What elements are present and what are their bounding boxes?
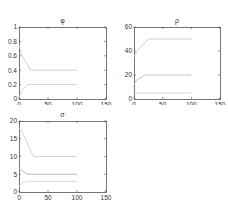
plot-phi-svg: φ05010015000.20.40.60.81 [0,0,114,105]
y-tick-label: 15 [10,135,18,142]
y-tick-label: 1 [13,23,17,30]
y-tick-label: 10 [10,153,18,160]
plot-rho-svg: ρ0501001500204060 [114,0,228,105]
y-tick-label: 0.4 [8,67,17,74]
plot-title: ρ [175,17,179,25]
plot-sigma: σ05010015005101520 [0,100,114,211]
y-tick-label: 5 [13,171,17,178]
series-line-mid [134,75,191,85]
y-tick-label: 20 [10,117,18,124]
series-line-mid [19,169,77,174]
x-tick-label: 50 [159,101,167,105]
plot-rho: ρ0501001500204060 [114,0,228,105]
x-tick-label: 50 [44,194,52,201]
x-tick-label: 100 [72,194,83,201]
y-tick-label: 0 [128,95,132,102]
plot-title: σ [60,111,65,118]
plot-sigma-svg: σ05010015005101520 [0,100,114,211]
axes-box [20,122,107,193]
y-tick-label: 0.6 [8,52,17,59]
y-tick-label: 40 [125,47,133,54]
series-line-high [134,39,191,57]
series-line-low [19,181,77,186]
y-tick-label: 0.2 [8,81,17,88]
x-tick-label: 150 [101,194,112,201]
x-tick-label: 0 [132,101,136,105]
x-tick-label: 100 [186,101,197,105]
x-tick-label: 0 [17,194,21,201]
axes-box [135,28,221,100]
y-tick-label: 60 [125,23,133,30]
series-line-high [19,128,77,156]
plot-phi: φ05010015000.20.40.60.81 [0,0,114,105]
plot-title: φ [60,17,65,25]
series-line-upper [19,45,77,70]
y-tick-label: 0 [13,188,17,195]
y-tick-label: 0.8 [8,38,17,45]
y-tick-label: 20 [125,71,133,78]
axes-box [20,28,107,100]
series-line-lower [19,85,77,98]
x-tick-label: 150 [215,101,226,105]
